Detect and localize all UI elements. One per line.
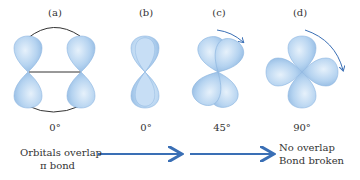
orbital-pair-c [188,30,248,110]
caption-right-2: Bond broken [279,155,344,167]
angle-b: 0° [131,122,161,133]
caption-left-2: π bond [40,160,75,172]
orbital-pair-a [14,27,95,112]
orbital-pair-d [266,30,343,108]
panel-label-c: (c) [204,7,234,18]
panel-label-d: (d) [285,7,315,18]
angle-c: 45° [207,122,237,133]
angle-d: 90° [287,122,317,133]
panel-label-a: (a) [40,7,70,18]
angle-a: 0° [40,122,70,133]
caption-right-1: No overlap [279,142,335,154]
panel-label-b: (b) [131,7,161,18]
orbital-pair-b [131,36,159,108]
caption-left-1: Orbitals overlap [20,147,102,159]
